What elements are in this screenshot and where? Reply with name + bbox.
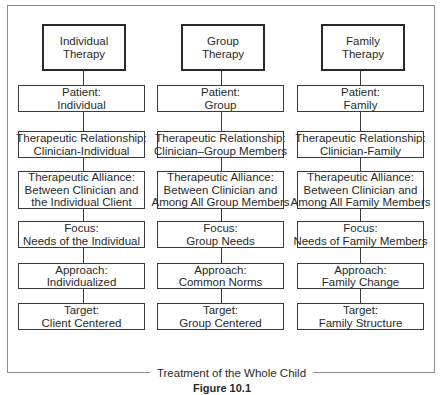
box-value: Family (344, 99, 378, 112)
header-line: Therapy (202, 48, 244, 61)
box-label: Target: (64, 304, 99, 317)
box-therapeutic-relationship: Therapeutic Relationship: Clinician-Indi… (18, 131, 145, 158)
box-label: Target: (343, 304, 378, 317)
box-approach: Approach: Common Norms (157, 263, 284, 289)
box-value: Group Needs (186, 235, 254, 248)
box-therapeutic-alliance: Therapeutic Alliance: Between Clinician … (18, 171, 145, 209)
box-label: Patient: (62, 86, 101, 99)
header-family-therapy: Family Therapy (321, 24, 405, 71)
box-label: Focus: (343, 222, 378, 235)
box-therapeutic-relationship: Therapeutic Relationship: Clinician-Fami… (297, 131, 424, 158)
header-line: Individual (60, 35, 109, 48)
box-value: Common Norms (179, 276, 263, 289)
frame-label: Treatment of the Whole Child (150, 366, 313, 380)
box-value: Between Clinician and (164, 184, 278, 197)
box-label: Focus: (64, 222, 99, 235)
box-value: Client Centered (42, 317, 122, 330)
box-target: Target: Family Structure (297, 303, 424, 330)
box-value: Individualized (47, 276, 117, 289)
box-patient: Patient: Family (297, 85, 424, 112)
box-value: Family Change (322, 276, 399, 289)
box-value: Between Clinician and (25, 184, 139, 197)
box-approach: Approach: Individualized (18, 263, 145, 289)
box-label: Target: (203, 304, 238, 317)
box-label: Patient: (341, 86, 380, 99)
box-therapeutic-alliance: Therapeutic Alliance: Between Clinician … (297, 171, 424, 209)
box-label: Approach: (334, 264, 386, 277)
box-focus: Focus: Needs of Family Members (297, 221, 424, 248)
box-value: Individual (57, 99, 106, 112)
box-target: Target: Client Centered (18, 303, 145, 330)
box-therapeutic-alliance: Therapeutic Alliance: Between Clinician … (157, 171, 284, 209)
box-label: Approach: (194, 264, 246, 277)
box-value: Clinician–Group Members (154, 145, 287, 158)
header-line: Therapy (63, 48, 105, 61)
header-line: Group (207, 35, 239, 48)
header-group-therapy: Group Therapy (181, 24, 265, 71)
box-label: Patient: (201, 86, 240, 99)
box-value: Family Structure (319, 317, 403, 330)
box-focus: Focus: Group Needs (157, 221, 284, 248)
box-value: Group (205, 99, 237, 112)
box-patient: Patient: Group (157, 85, 284, 112)
box-label: Therapeutic Alliance: (167, 171, 274, 184)
box-value: Among All Family Members (291, 196, 431, 209)
box-label: Therapeutic Relationship: (295, 132, 425, 145)
box-value: Group Centered (179, 317, 261, 330)
box-target: Target: Group Centered (157, 303, 284, 330)
box-value: the Individual Client (31, 196, 131, 209)
box-value: Between Clinician and (304, 184, 418, 197)
box-label: Approach: (55, 264, 107, 277)
box-focus: Focus: Needs of the Individual (18, 221, 145, 248)
box-value: Needs of the Individual (23, 235, 140, 248)
box-label: Therapeutic Alliance: (307, 171, 414, 184)
box-value: Needs of Family Members (293, 235, 427, 248)
box-label: Therapeutic Relationship: (16, 132, 146, 145)
box-patient: Patient: Individual (18, 85, 145, 112)
header-individual-therapy: Individual Therapy (42, 24, 126, 71)
box-approach: Approach: Family Change (297, 263, 424, 289)
box-value: Clinician-Individual (34, 145, 130, 158)
box-value: Among All Group Members (151, 196, 289, 209)
box-therapeutic-relationship: Therapeutic Relationship: Clinician–Grou… (157, 131, 284, 158)
box-label: Therapeutic Alliance: (28, 171, 135, 184)
header-line: Family (346, 35, 380, 48)
figure-caption: Figure 10.1 (0, 381, 444, 395)
box-label: Focus: (203, 222, 238, 235)
box-value: Clinician-Family (320, 145, 401, 158)
box-label: Therapeutic Relationship: (155, 132, 285, 145)
header-line: Therapy (342, 48, 384, 61)
